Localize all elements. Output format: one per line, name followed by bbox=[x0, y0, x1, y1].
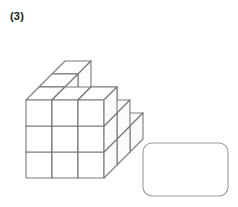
worksheet-problem: (3) bbox=[0, 0, 238, 207]
cube-face-front bbox=[78, 126, 104, 152]
answer-input-box[interactable] bbox=[143, 143, 228, 196]
cube-face-front bbox=[78, 100, 104, 126]
cube-face-front bbox=[52, 152, 78, 178]
cube-face-front bbox=[26, 100, 52, 126]
cube-face-front bbox=[52, 100, 78, 126]
cube-face-front bbox=[52, 126, 78, 152]
cube-face-front bbox=[26, 152, 52, 178]
cube-face-front bbox=[78, 152, 104, 178]
cube-polygons bbox=[26, 61, 143, 178]
cube-face-front bbox=[26, 126, 52, 152]
